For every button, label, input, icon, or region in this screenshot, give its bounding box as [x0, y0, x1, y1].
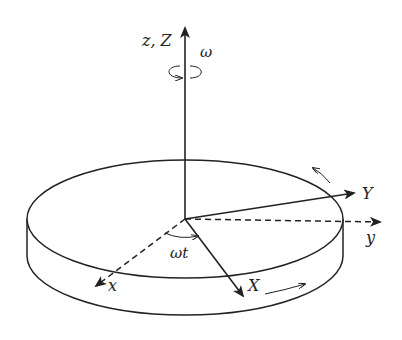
- omega-label: ω: [200, 43, 212, 61]
- angle-label: ωt: [170, 244, 189, 262]
- rotating-disc-diagram: z, Z ω Y y x X ωt: [0, 0, 402, 340]
- z-axis-label: z, Z: [141, 31, 173, 50]
- rotation-arrow-near-Y: [313, 168, 330, 183]
- y-axis-label: y: [365, 228, 376, 247]
- X-axis-label: X: [246, 276, 260, 295]
- x-axis-label: x: [108, 276, 117, 295]
- Y-axis-label: Y: [362, 184, 374, 203]
- rotation-arrow-near-X: [265, 284, 305, 294]
